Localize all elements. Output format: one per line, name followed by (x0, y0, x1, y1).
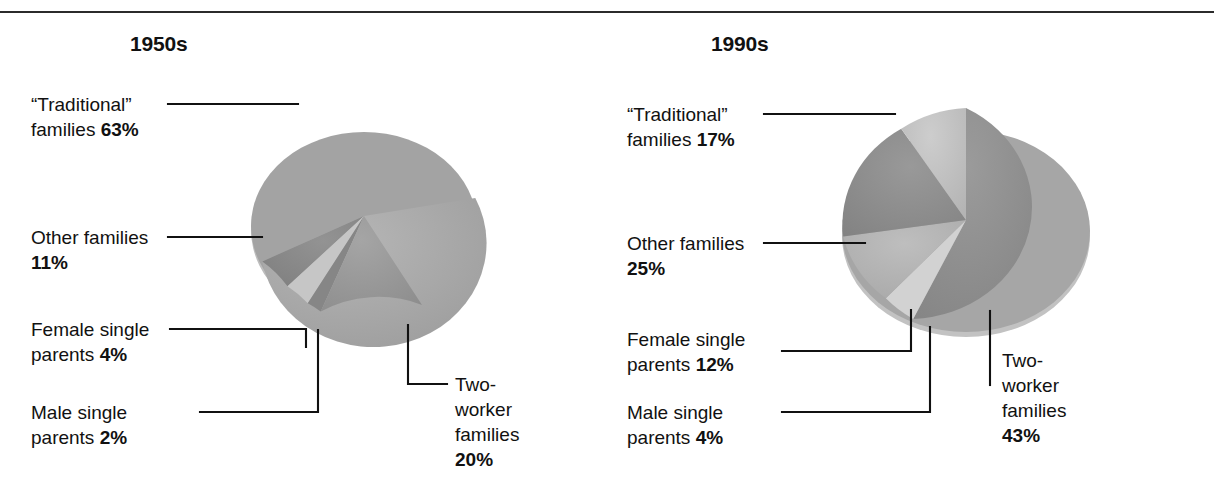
label-other-families-1950s-name: Other families (31, 227, 148, 248)
label-female-single-1990s: Female single parents 12% (627, 327, 745, 377)
leader-male-single-1990s (782, 327, 930, 412)
leader-male-single-1950s (200, 330, 318, 412)
label-male-single-1990s: Male single parents 4% (627, 400, 723, 450)
label-traditional-1950s-value: 63% (101, 119, 139, 140)
label-other-families-1950s-value: 11% (31, 252, 68, 273)
label-two-worker-1950s: Two- worker families 20% (455, 372, 519, 472)
label-two-worker-1950s-value: 20% (455, 449, 493, 470)
label-two-worker-1990s: Two- worker families 43% (1002, 348, 1066, 448)
label-male-single-1950s-value: 2% (100, 427, 127, 448)
label-female-single-1990s-value: 12% (696, 354, 734, 375)
label-two-worker-1990s-value: 43% (1002, 425, 1040, 446)
chart-panel-1990s: 1990s (607, 0, 1214, 493)
label-female-single-1950s: Female single parents 4% (31, 317, 149, 367)
label-other-families-1990s-name: Other families (627, 233, 744, 254)
label-two-worker-1950s-name: Two- worker families (455, 374, 519, 445)
chart-panel-1950s: 1950s (0, 0, 607, 493)
label-other-families-1990s-value: 25% (627, 258, 665, 279)
leader-two-worker-1950s (408, 325, 447, 384)
label-female-single-1950s-value: 4% (100, 344, 127, 365)
label-male-single-1950s: Male single parents 2% (31, 400, 127, 450)
label-female-single-1950s-name: Female single parents (31, 319, 149, 365)
label-two-worker-1990s-name: Two- worker families (1002, 350, 1066, 421)
label-traditional-1990s-value: 17% (697, 129, 735, 150)
leader-female-single-1950s (170, 329, 306, 347)
label-other-families-1950s: Other families 11% (31, 225, 148, 275)
label-other-families-1990s: Other families 25% (627, 231, 744, 281)
label-traditional-1990s: “Traditional” families 17% (627, 102, 735, 152)
label-male-single-1990s-value: 4% (696, 427, 723, 448)
leader-female-single-1990s (782, 310, 911, 351)
label-traditional-1950s: “Traditional” families 63% (31, 92, 139, 142)
